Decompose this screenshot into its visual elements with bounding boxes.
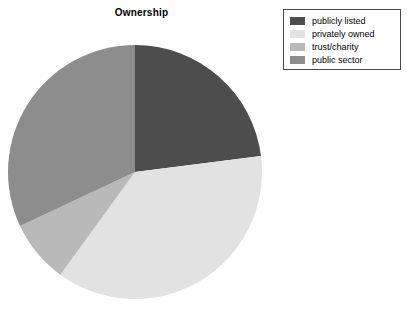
legend: publicly listed privately owned trust/ch…	[283, 9, 401, 70]
legend-item-privately-owned[interactable]: privately owned	[290, 27, 395, 40]
chart-page: Ownership publicly listed privately owne…	[0, 0, 407, 313]
legend-swatch-icon	[290, 56, 305, 64]
pie-chart	[7, 44, 263, 300]
legend-item-public-sector[interactable]: public sector	[290, 53, 395, 66]
legend-item-label: trust/charity	[312, 42, 359, 52]
legend-swatch-icon	[290, 30, 305, 38]
legend-item-label: publicly listed	[312, 16, 366, 26]
pie-slice[interactable]	[135, 45, 261, 172]
legend-item-trust-charity[interactable]: trust/charity	[290, 40, 395, 53]
legend-item-label: public sector	[312, 55, 363, 65]
pie-chart-svg	[7, 44, 263, 300]
legend-swatch-icon	[290, 43, 305, 51]
legend-item-label: privately owned	[312, 29, 375, 39]
legend-item-publicly-listed[interactable]: publicly listed	[290, 14, 395, 27]
legend-swatch-icon	[290, 17, 305, 25]
pie-slice-group	[8, 45, 262, 299]
page-title: Ownership	[0, 7, 283, 18]
